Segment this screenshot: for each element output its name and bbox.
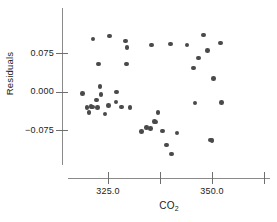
data-point [114,100,119,105]
x-axis-title-subscript: 2 [175,205,179,212]
data-point [106,103,111,108]
data-point [107,34,112,39]
data-point [95,105,100,110]
x-axis-title: CO2 [68,200,270,211]
data-point [114,90,119,95]
data-point [123,39,128,44]
data-point [196,56,201,61]
data-point [128,105,133,110]
data-point [99,92,104,97]
data-point [80,91,85,96]
data-point [218,41,223,46]
data-point [205,48,210,53]
data-point [211,76,216,81]
data-point [124,62,129,67]
data-point [91,37,96,42]
x-axis-line [68,178,270,179]
data-point [103,112,108,117]
data-point [156,110,161,115]
plot-area [62,8,270,178]
data-point [160,129,165,134]
data-point [96,62,101,67]
y-axis-tick-label-wrap: −0.075 [0,125,54,136]
data-point [175,131,180,136]
data-point [164,143,169,148]
data-point [139,129,144,134]
y-axis-tick-label: −0.075 [2,125,54,135]
data-point [153,120,158,125]
y-axis-title: Residuals [4,44,15,104]
data-point [191,66,196,71]
data-point [168,42,173,47]
data-point [201,33,206,38]
data-point [185,43,190,48]
x-axis-title-text: CO [159,200,174,211]
data-point [193,101,198,106]
scatter-plot-figure: 0.0750.000−0.075 Residuals 325.0350.0 CO… [0,0,277,222]
x-axis-tick-label: 325.0 [78,186,138,196]
data-point [94,98,99,103]
data-point [149,43,154,48]
data-point [148,126,153,131]
data-point [90,105,95,110]
data-point [119,105,124,110]
data-point [169,152,174,157]
data-point [98,84,103,89]
data-point [219,100,224,105]
data-point [87,110,92,115]
data-point [125,45,130,50]
data-point [210,138,215,143]
x-axis-tick-label: 350.0 [182,186,242,196]
